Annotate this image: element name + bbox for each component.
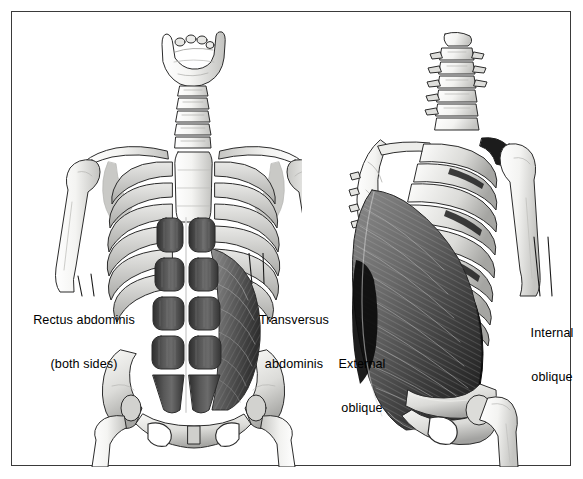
- label-rectus-abdominis: Rectus abdominis (both sides): [19, 284, 149, 401]
- humerus-right: [287, 160, 302, 292]
- humerus-left: [56, 160, 101, 292]
- spine: [425, 32, 487, 130]
- label-rectus-abdominis-line1: Rectus abdominis: [19, 313, 149, 328]
- label-internal-oblique: Internal oblique: [514, 297, 583, 414]
- sternum: [175, 152, 212, 222]
- label-transversus-abdominis-line1: Transversus: [243, 313, 345, 328]
- cervical-spine: [175, 86, 211, 148]
- illustration-page: Rectus abdominis (both sides) Transversu…: [0, 0, 583, 479]
- label-external-oblique-line2: oblique: [323, 401, 401, 416]
- label-external-oblique: External oblique: [323, 328, 401, 445]
- pelvis-femur: [402, 384, 518, 467]
- illustration-frame: Rectus abdominis (both sides) Transversu…: [11, 11, 571, 466]
- label-external-oblique-line1: External: [323, 357, 401, 372]
- rectus-abdominis: [152, 218, 221, 413]
- mandible: [162, 32, 225, 87]
- label-rectus-abdominis-line2: (both sides): [19, 357, 149, 372]
- label-internal-oblique-line1: Internal: [514, 326, 583, 341]
- label-internal-oblique-line2: oblique: [514, 370, 583, 385]
- humerus: [500, 144, 540, 296]
